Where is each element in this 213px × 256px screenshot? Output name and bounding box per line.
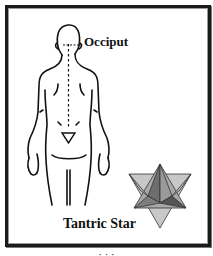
caption: · · · bbox=[0, 249, 213, 256]
tantric-star-icon bbox=[129, 164, 191, 228]
label-occiput: Occiput bbox=[84, 34, 128, 50]
label-tantric-star: Tantric Star bbox=[63, 216, 136, 232]
